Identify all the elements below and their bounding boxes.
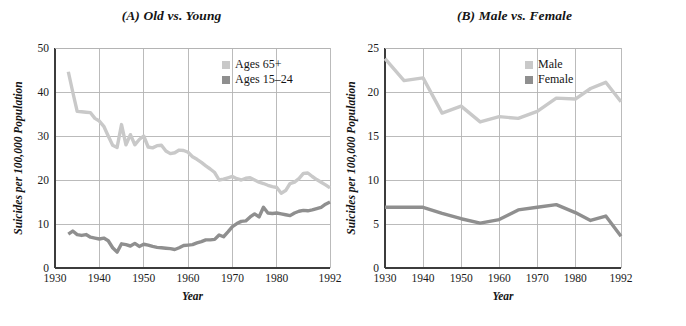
y-axis-title: Suicides per 100,000 Population [12,81,25,234]
chart-panel-b: (B) Male vs. Female 05101520251930194019… [343,0,686,326]
y-tick-label: 10 [368,174,380,186]
x-tick-label: 1980 [564,272,587,284]
y-axis-title: Suicides per 100,000 Population [345,81,358,234]
x-tick-label: 1970 [221,272,244,284]
chart-panel-a: (A) Old vs. Young 0102030405019301940195… [0,0,343,326]
legend-label: Female [538,72,573,86]
legend-swatch [525,61,533,69]
legend-swatch [222,76,230,84]
x-tick-label: 1960 [177,272,200,284]
y-tick-label: 40 [38,86,50,98]
x-tick-label: 1950 [450,272,473,284]
y-tick-label: 5 [373,218,379,230]
x-tick-label: 1940 [88,272,111,284]
panel-a-plot: 010203040501930194019501960197019801992Y… [0,0,343,326]
x-tick-label: 1930 [44,272,67,284]
y-tick-label: 25 [368,42,380,54]
legend-label: Ages 15–24 [235,72,293,86]
legend-label: Male [538,57,563,71]
legend-swatch [525,76,533,84]
x-tick-label: 1980 [265,272,288,284]
series-line-2 [68,202,330,252]
y-tick-label: 20 [368,86,380,98]
x-tick-label: 1950 [132,272,155,284]
panel-b-plot: 05101520251930194019501960197019801992Ye… [343,0,686,326]
y-tick-label: 15 [368,130,380,142]
y-tick-label: 50 [38,42,50,54]
figure-root: (A) Old vs. Young 0102030405019301940195… [0,0,686,326]
x-tick-label: 1970 [526,272,549,284]
x-tick-label: 1992 [610,272,633,284]
x-axis-title: Year [492,290,514,302]
y-tick-label: 20 [38,174,50,186]
y-tick-label: 30 [38,130,50,142]
series-line-1 [385,59,621,122]
x-tick-label: 1940 [412,272,435,284]
series-line-2 [385,205,621,237]
legend-label: Ages 65+ [235,57,282,71]
x-tick-label: 1960 [488,272,511,284]
y-tick-label: 10 [38,218,50,230]
x-axis-title: Year [182,290,204,302]
x-tick-label: 1930 [374,272,397,284]
legend-swatch [222,61,230,69]
series-line-1 [68,72,330,193]
x-tick-label: 1992 [319,272,342,284]
